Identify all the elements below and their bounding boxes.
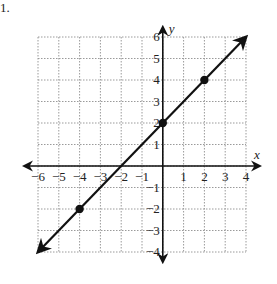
x-tick-label: −4 bbox=[73, 169, 87, 184]
axes: xy bbox=[24, 21, 260, 262]
y-tick-label: 6 bbox=[153, 29, 160, 44]
y-tick-label: 1 bbox=[153, 137, 160, 152]
y-tick-label: 3 bbox=[153, 94, 160, 109]
x-tick-label: 1 bbox=[180, 169, 187, 184]
data-point bbox=[200, 76, 208, 84]
x-tick-label: 3 bbox=[222, 169, 229, 184]
y-tick-label: 5 bbox=[153, 51, 160, 66]
y-tick-label: −4 bbox=[146, 244, 160, 259]
coordinate-plane: xy −6−5−4−3−2−11234654321−1−2−3−4 bbox=[0, 0, 277, 284]
x-tick-label: 4 bbox=[243, 169, 250, 184]
x-tick-label: −6 bbox=[31, 169, 45, 184]
x-tick-label: −5 bbox=[52, 169, 66, 184]
y-tick-label: −3 bbox=[146, 223, 160, 238]
y-tick-label: −1 bbox=[146, 180, 160, 195]
y-axis-label: y bbox=[167, 21, 175, 36]
x-tick-label: 2 bbox=[201, 169, 208, 184]
y-tick-label: −2 bbox=[146, 201, 160, 216]
data-point bbox=[159, 119, 167, 127]
y-tick-label: 4 bbox=[153, 72, 160, 87]
data-point bbox=[75, 205, 83, 213]
x-axis-label: x bbox=[253, 147, 260, 162]
